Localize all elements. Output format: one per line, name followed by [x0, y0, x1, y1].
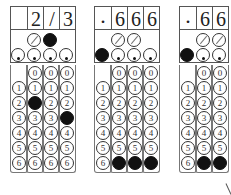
- digit-bubble-2[interactable]: 2: [128, 96, 142, 110]
- digit-bubble-6-filled[interactable]: 6: [213, 156, 227, 170]
- decimal-point-bubble[interactable]: [111, 48, 125, 62]
- digit-bubble-5[interactable]: 5: [213, 141, 227, 155]
- digit-bubble-6[interactable]: 6: [44, 156, 58, 170]
- digit-bubble-2-filled[interactable]: 2: [28, 96, 42, 110]
- digit-bubble-5[interactable]: 5: [44, 141, 58, 155]
- decimal-point-bubble[interactable]: [127, 48, 141, 62]
- fraction-bar-bubble[interactable]: [127, 33, 141, 47]
- decimal-point-bubble[interactable]: [11, 48, 25, 62]
- digit-bubble-1[interactable]: 1: [96, 81, 110, 95]
- decimal-point-bubble-filled[interactable]: [180, 48, 194, 62]
- digit-bubble-0[interactable]: 0: [144, 66, 158, 80]
- digit-bubble-2[interactable]: 2: [197, 96, 211, 110]
- answer-box-2[interactable]: 6: [196, 7, 213, 29]
- digit-bubble-6[interactable]: 6: [96, 156, 110, 170]
- digit-bubble-0[interactable]: 0: [197, 66, 211, 80]
- digit-bubble-0[interactable]: 0: [213, 66, 227, 80]
- digit-bubble-2[interactable]: 2: [112, 96, 126, 110]
- answer-box-1[interactable]: .: [95, 7, 111, 29]
- digit-bubble-5[interactable]: 5: [128, 141, 142, 155]
- digit-bubble-2[interactable]: 2: [60, 96, 74, 110]
- digit-bubble-6[interactable]: 6: [181, 156, 195, 170]
- digit-bubble-3[interactable]: 3: [28, 111, 42, 125]
- answer-box-2[interactable]: 6: [111, 7, 128, 29]
- digit-bubble-3[interactable]: 3: [12, 111, 26, 125]
- digit-bubble-6[interactable]: 6: [28, 156, 42, 170]
- digit-bubble-2[interactable]: 2: [181, 96, 195, 110]
- digit-bubble-1[interactable]: 1: [28, 81, 42, 95]
- digit-bubble-3[interactable]: 3: [112, 111, 126, 125]
- decimal-point-bubble-filled[interactable]: [95, 48, 109, 62]
- digit-bubble-2[interactable]: 2: [213, 96, 227, 110]
- digit-bubble-5[interactable]: 5: [144, 141, 158, 155]
- digit-bubble-1[interactable]: 1: [181, 81, 195, 95]
- answer-box-3[interactable]: /: [43, 7, 60, 29]
- digit-bubble-1[interactable]: 1: [44, 81, 58, 95]
- digit-bubble-3[interactable]: 3: [44, 111, 58, 125]
- digit-bubble-3[interactable]: 3: [96, 111, 110, 125]
- fraction-bar-bubble[interactable]: [27, 33, 41, 47]
- digit-bubble-1[interactable]: 1: [60, 81, 74, 95]
- fraction-bar-bubble-filled[interactable]: [43, 33, 57, 47]
- digit-bubble-1[interactable]: 1: [112, 81, 126, 95]
- digit-bubble-6[interactable]: 6: [60, 156, 74, 170]
- answer-box-4[interactable]: 6: [143, 7, 160, 29]
- answer-box-2[interactable]: 2: [27, 7, 44, 29]
- digit-bubble-5[interactable]: 5: [28, 141, 42, 155]
- digit-bubble-1[interactable]: 1: [12, 81, 26, 95]
- answer-box-4[interactable]: 3: [59, 7, 76, 29]
- digit-bubble-0[interactable]: 0: [44, 66, 58, 80]
- digit-bubble-0[interactable]: 0: [60, 66, 74, 80]
- digit-bubble-5[interactable]: 5: [60, 141, 74, 155]
- digit-bubble-4[interactable]: 4: [112, 126, 126, 140]
- digit-bubble-5[interactable]: 5: [112, 141, 126, 155]
- decimal-point-bubble[interactable]: [27, 48, 41, 62]
- digit-bubble-0[interactable]: 0: [112, 66, 126, 80]
- digit-bubble-5[interactable]: 5: [12, 141, 26, 155]
- fraction-bar-bubble[interactable]: [111, 33, 125, 47]
- digit-bubble-2[interactable]: 2: [144, 96, 158, 110]
- digit-bubble-4[interactable]: 4: [197, 126, 211, 140]
- digit-bubble-5[interactable]: 5: [181, 141, 195, 155]
- digit-bubble-1[interactable]: 1: [128, 81, 142, 95]
- fraction-bar-bubble[interactable]: [212, 33, 226, 47]
- digit-bubble-1[interactable]: 1: [213, 81, 227, 95]
- digit-bubble-5[interactable]: 5: [96, 141, 110, 155]
- digit-bubble-3[interactable]: 3: [213, 111, 227, 125]
- digit-bubble-2[interactable]: 2: [44, 96, 58, 110]
- digit-bubble-5[interactable]: 5: [197, 141, 211, 155]
- answer-box-1[interactable]: [11, 7, 27, 29]
- digit-bubble-4[interactable]: 4: [213, 126, 227, 140]
- digit-bubble-1[interactable]: 1: [197, 81, 211, 95]
- digit-bubble-6-filled[interactable]: 6: [197, 156, 211, 170]
- digit-bubble-6-filled[interactable]: 6: [112, 156, 126, 170]
- decimal-point-bubble[interactable]: [59, 48, 73, 62]
- digit-bubble-4[interactable]: 4: [128, 126, 142, 140]
- answer-box-1[interactable]: .: [180, 7, 196, 29]
- digit-bubble-4[interactable]: 4: [96, 126, 110, 140]
- answer-box-3[interactable]: 6: [212, 7, 229, 29]
- digit-bubble-3[interactable]: 3: [144, 111, 158, 125]
- decimal-point-bubble[interactable]: [143, 48, 157, 62]
- digit-bubble-2[interactable]: 2: [96, 96, 110, 110]
- digit-bubble-3[interactable]: 3: [128, 111, 142, 125]
- digit-bubble-6[interactable]: 6: [12, 156, 26, 170]
- digit-bubble-4[interactable]: 4: [12, 126, 26, 140]
- digit-bubble-4[interactable]: 4: [144, 126, 158, 140]
- digit-bubble-4[interactable]: 4: [181, 126, 195, 140]
- digit-bubble-6-filled[interactable]: 6: [144, 156, 158, 170]
- digit-bubble-1[interactable]: 1: [144, 81, 158, 95]
- digit-bubble-3[interactable]: 3: [197, 111, 211, 125]
- digit-bubble-4[interactable]: 4: [60, 126, 74, 140]
- digit-bubble-4[interactable]: 4: [44, 126, 58, 140]
- digit-bubble-4[interactable]: 4: [28, 126, 42, 140]
- digit-bubble-6-filled[interactable]: 6: [128, 156, 142, 170]
- digit-bubble-3[interactable]: 3: [181, 111, 195, 125]
- digit-bubble-3-filled[interactable]: 3: [60, 111, 74, 125]
- answer-box-3[interactable]: 6: [127, 7, 144, 29]
- decimal-point-bubble[interactable]: [43, 48, 57, 62]
- digit-bubble-0[interactable]: 0: [128, 66, 142, 80]
- fraction-bar-bubble[interactable]: [196, 33, 210, 47]
- digit-bubble-0[interactable]: 0: [28, 66, 42, 80]
- digit-bubble-2[interactable]: 2: [12, 96, 26, 110]
